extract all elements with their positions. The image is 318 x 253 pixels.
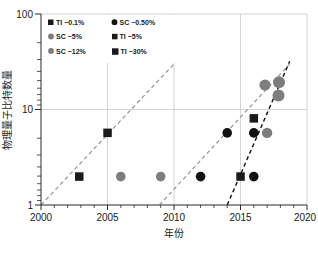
data-point — [75, 172, 84, 181]
data-point — [116, 172, 126, 182]
data-point — [249, 128, 259, 138]
data-point — [236, 172, 245, 181]
scatter-chart: 100 10 1 2000 2005 2010 2015 2020 年份 物理量… — [0, 0, 318, 253]
legend-label-ti-30: TI ~30% — [121, 48, 148, 55]
legend-marker-ti-0-1 — [48, 20, 54, 26]
x-tick-label-2005: 2005 — [96, 212, 119, 223]
data-point — [262, 128, 272, 138]
legend-marker-ti-30 — [112, 48, 119, 55]
y-tick-label-1: 1 — [27, 200, 33, 211]
x-tick-label-2015: 2015 — [229, 212, 252, 223]
legend: TI ~0.1% SC ~0.50% SC ~5% TI ~5% SC ~12%… — [45, 15, 181, 63]
legend-label-ti-0-1: TI ~0.1% — [56, 19, 85, 26]
x-axis-title: 年份 — [164, 227, 184, 239]
data-point — [222, 128, 232, 138]
x-tick-label-2020: 2020 — [294, 212, 317, 223]
data-point — [273, 90, 285, 102]
legend-marker-ti-5 — [112, 34, 118, 40]
data-point — [273, 76, 285, 88]
chart-container: 100 10 1 2000 2005 2010 2015 2020 年份 物理量… — [0, 0, 318, 253]
legend-label-sc-5: SC ~5% — [56, 33, 83, 40]
legend-marker-sc-0-50 — [112, 19, 118, 25]
legend-marker-sc-12 — [48, 48, 54, 54]
data-point — [103, 129, 112, 138]
data-point — [250, 114, 259, 123]
y-tick-label-10: 10 — [22, 104, 34, 115]
y-axis-title: 物理量子比特数量 — [1, 70, 13, 150]
data-point — [249, 172, 259, 182]
data-point — [196, 172, 206, 182]
legend-label-sc-12: SC ~12% — [56, 48, 87, 55]
data-point — [156, 172, 166, 182]
data-point — [259, 79, 270, 90]
x-tick-label-2010: 2010 — [163, 212, 186, 223]
x-tick-label-2000: 2000 — [30, 212, 53, 223]
legend-label-sc-0-50: SC ~0.50% — [120, 19, 156, 26]
y-tick-label-100: 100 — [16, 9, 33, 20]
legend-label-ti-5: TI ~5% — [120, 33, 143, 40]
legend-marker-sc-5 — [48, 34, 54, 40]
